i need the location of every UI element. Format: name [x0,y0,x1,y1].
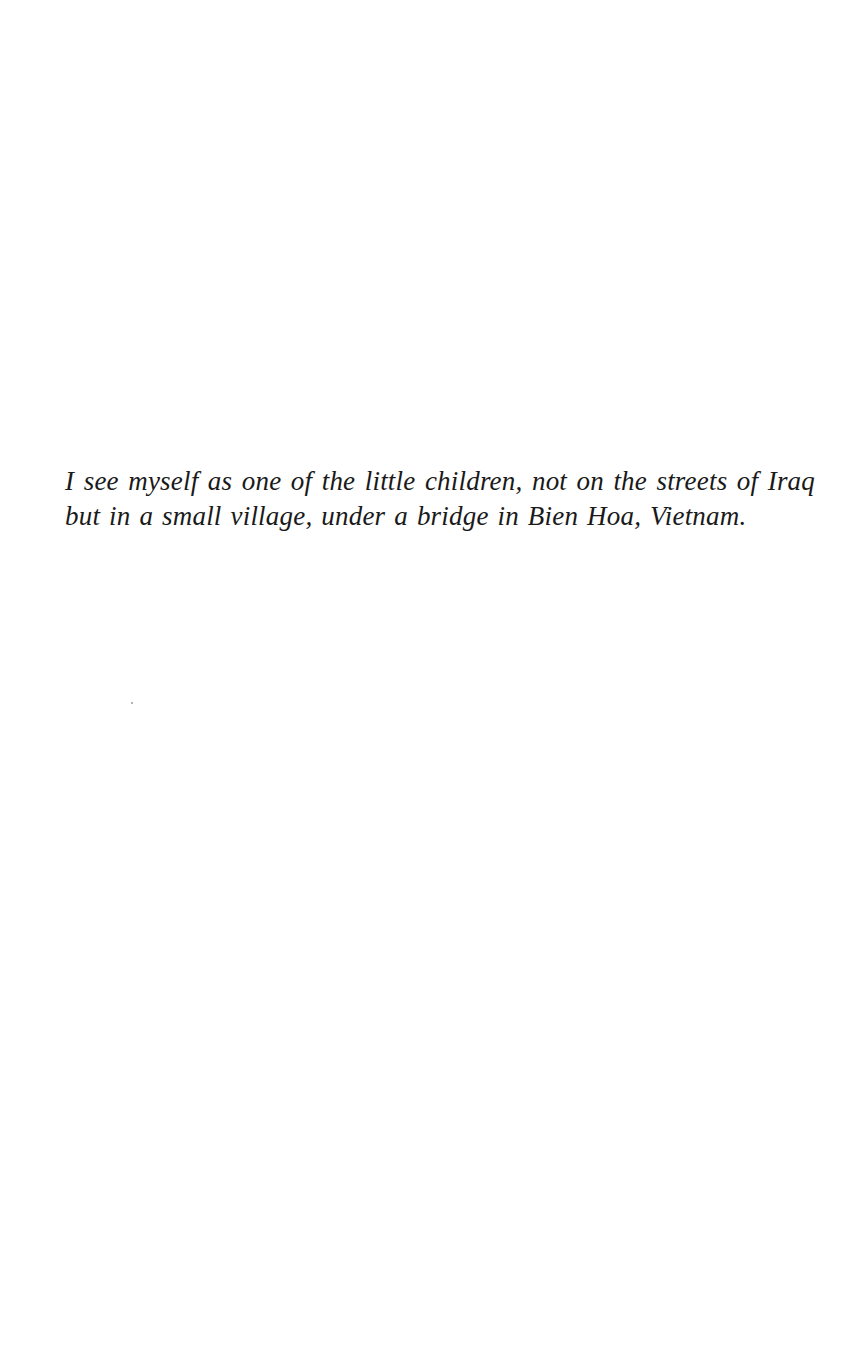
scan-speck [131,702,133,704]
book-page: I see myself as one of the little childr… [0,0,862,1356]
epigraph-passage: I see myself as one of the little childr… [65,464,815,534]
